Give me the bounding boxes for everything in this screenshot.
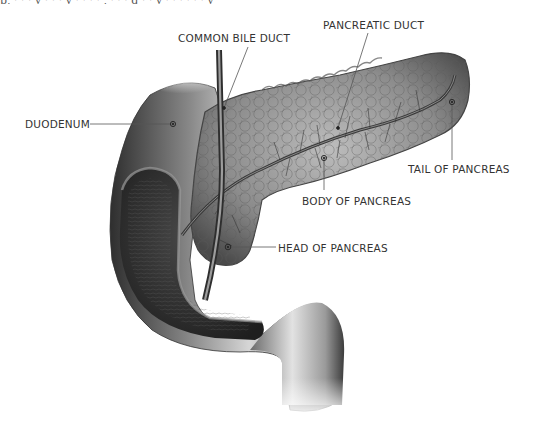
cropped-caption-text: p, · · · y · · · y · · · · , · · · g · ·… bbox=[0, 0, 538, 4]
label-common-bile-duct: COMMON BILE DUCT bbox=[178, 32, 290, 44]
pancreatic-duct-marker bbox=[337, 127, 340, 130]
anatomy-illustration bbox=[0, 0, 538, 429]
label-duodenum: DUODENUM bbox=[25, 118, 90, 130]
label-head-of-pancreas: HEAD OF PANCREAS bbox=[278, 242, 388, 254]
label-body-of-pancreas: BODY OF PANCREAS bbox=[302, 195, 411, 207]
pancreas-diagram: p, · · · y · · · y · · · · , · · · g · ·… bbox=[0, 0, 538, 429]
label-tail-of-pancreas: TAIL OF PANCREAS bbox=[408, 163, 510, 175]
common-bile-duct-marker bbox=[223, 107, 226, 110]
pancreas-shape bbox=[182, 53, 469, 266]
label-pancreatic-duct: PANCREATIC DUCT bbox=[323, 19, 424, 31]
